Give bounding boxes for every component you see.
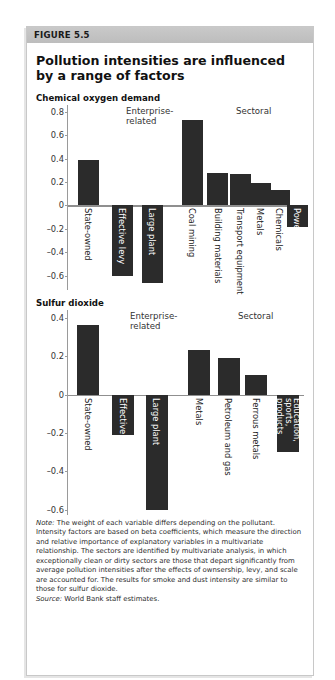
y-axis-tick-label: –0.2 bbox=[47, 428, 68, 438]
bar-category-label: State-owned bbox=[84, 208, 93, 261]
y-axis-tick-label: 0.2 bbox=[51, 177, 68, 187]
note-text: The weight of each variable differs depe… bbox=[36, 519, 301, 594]
group-label-sectoral: Sectoral bbox=[236, 107, 271, 117]
y-axis-tick-label: 0.4 bbox=[51, 313, 68, 323]
figure-footnotes: Note: The weight of each variable differ… bbox=[27, 515, 313, 611]
y-axis-tick-label: 0.2 bbox=[51, 351, 68, 361]
bar-category-label: Power bbox=[292, 208, 301, 233]
bar bbox=[78, 160, 99, 206]
figure-title: Pollution intensities are influenced by … bbox=[36, 53, 304, 84]
group-label-enterprise-related: Enterprise-related bbox=[126, 107, 173, 127]
bar-category-label: Education,sports,products bbox=[276, 398, 301, 442]
plot-area: 0.80.60.40.20–0.2–0.4–0.6State-ownedEffe… bbox=[67, 105, 304, 290]
bar-category-label: Metals bbox=[256, 208, 265, 235]
bar bbox=[182, 120, 203, 206]
y-axis-tick-label: –0.4 bbox=[47, 247, 68, 257]
bar-category-label: Building materials bbox=[213, 208, 222, 283]
y-axis-tick-label: 0.4 bbox=[51, 154, 68, 164]
y-axis-tick-label: 0 bbox=[59, 390, 68, 400]
bar bbox=[245, 375, 267, 394]
y-axis-tick-label: –0.6 bbox=[47, 505, 68, 515]
plot-area: 0.40.20–0.2–0.4–0.6State-ownedEffective … bbox=[67, 310, 304, 515]
chart-2-title: Sulfur dioxide bbox=[36, 298, 304, 308]
bar-category-label: Metals bbox=[194, 398, 203, 425]
figure-header: FIGURE 5.5 bbox=[27, 27, 313, 44]
y-axis-tick-label: –0.4 bbox=[47, 466, 68, 476]
source-paragraph: Source: World Bank staff estimates. bbox=[36, 595, 304, 605]
zero-axis-line bbox=[68, 205, 304, 206]
y-axis-tick-label: –0.2 bbox=[47, 224, 68, 234]
chart-sulfur-dioxide: 0.40.20–0.2–0.4–0.6State-ownedEffective … bbox=[36, 310, 304, 515]
zero-axis-line bbox=[68, 395, 304, 396]
bar bbox=[207, 173, 228, 206]
group-label-enterprise-related: Enterprise-related bbox=[130, 312, 177, 332]
bar-category-label: Chemicals bbox=[274, 208, 283, 251]
chart-chemical-oxygen-demand: 0.80.60.40.20–0.2–0.4–0.6State-ownedEffe… bbox=[36, 105, 304, 290]
bar bbox=[269, 190, 290, 205]
y-axis-tick-label: 0.6 bbox=[51, 130, 68, 140]
bar bbox=[188, 350, 210, 394]
group-label-sectoral: Sectoral bbox=[238, 312, 273, 322]
note-prefix: Note: bbox=[36, 519, 55, 527]
source-prefix: Source: bbox=[36, 595, 62, 603]
figure-body: Pollution intensities are influenced by … bbox=[27, 44, 313, 515]
source-text: World Bank staff estimates. bbox=[62, 595, 159, 603]
y-axis-tick-label: –0.6 bbox=[47, 271, 68, 281]
bar-category-label: Large plant bbox=[152, 398, 161, 445]
bar-category-label: Large plant bbox=[147, 208, 156, 255]
figure-number-label: FIGURE 5.5 bbox=[34, 30, 90, 40]
bar-category-label: Effective levy bbox=[118, 398, 127, 454]
bar bbox=[77, 325, 99, 394]
figure-container: FIGURE 5.5 Pollution intensities are inf… bbox=[26, 26, 314, 676]
bar bbox=[230, 174, 251, 206]
bar-category-label: Coal mining bbox=[188, 208, 197, 257]
bar bbox=[218, 358, 240, 394]
bar-category-label: Petroleum and gas bbox=[224, 398, 233, 476]
bar-category-label: Transport equipment bbox=[235, 208, 244, 294]
bar-category-label: Effective levy bbox=[117, 208, 126, 264]
y-axis-tick-label: 0 bbox=[59, 200, 68, 210]
bar-category-label: Ferrous metals bbox=[251, 398, 260, 459]
chart-1-title: Chemical oxygen demand bbox=[36, 93, 304, 103]
note-paragraph: Note: The weight of each variable differ… bbox=[36, 519, 304, 595]
y-axis-tick-label: 0.8 bbox=[51, 107, 68, 117]
bar-category-label: State-owned bbox=[83, 398, 92, 451]
